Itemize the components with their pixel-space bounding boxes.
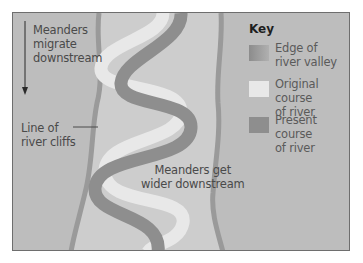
key-label-valley-edge: Edge of river valley — [275, 41, 337, 69]
key-swatch-present-course — [249, 117, 269, 133]
wider-line-2: wider downstream — [141, 177, 245, 191]
migrate-line-3: downstream — [33, 51, 102, 65]
cliffs-line-1: Line of — [21, 121, 76, 135]
cliffs-label: Line of river cliffs — [21, 121, 76, 149]
key-swatch-original-course — [249, 81, 269, 97]
migrate-line-1: Meanders — [33, 23, 102, 37]
wider-label: Meanders get wider downstream — [141, 163, 245, 191]
key-original-line-1: Original course — [275, 77, 349, 105]
arrow-head — [22, 87, 28, 95]
wider-line-1: Meanders get — [141, 163, 245, 177]
migrate-line-2: migrate — [33, 37, 102, 51]
key-swatch-valley-edge — [249, 45, 269, 61]
key-valley-line-1: Edge of — [275, 41, 337, 55]
cliffs-line-2: river cliffs — [21, 135, 76, 149]
key-present-line-2: of river — [275, 141, 349, 155]
diagram-frame: Meanders migrate downstream Line of rive… — [12, 12, 350, 251]
key-present-line-1: Present course — [275, 113, 349, 141]
key-valley-line-2: river valley — [275, 55, 337, 69]
key-title: Key — [249, 22, 274, 36]
migrate-label: Meanders migrate downstream — [33, 23, 102, 65]
key-label-present-course: Present course of river — [275, 113, 349, 155]
